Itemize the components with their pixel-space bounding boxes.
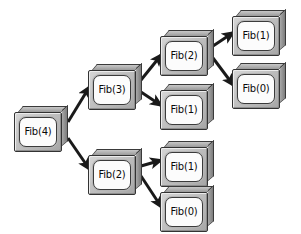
node-front-face: Fib(0) bbox=[160, 192, 208, 232]
node-plate: Fib(4) bbox=[19, 117, 57, 147]
node-right-face bbox=[280, 9, 286, 50]
tree-node-fib1a[interactable]: Fib(1) bbox=[160, 84, 214, 130]
node-right-face bbox=[208, 140, 214, 181]
tree-edge-fib2b-to-fib0b bbox=[141, 176, 162, 208]
tree-edge-fib4-to-fib2b bbox=[68, 138, 90, 170]
fibonacci-recursion-tree: Fib(4)Fib(3)Fib(2)Fib(1)Fib(1)Fib(0)Fib(… bbox=[0, 0, 301, 234]
tree-edge-fib3-to-fib1a bbox=[141, 92, 162, 106]
node-plate: Fib(1) bbox=[165, 95, 203, 125]
node-right-face bbox=[62, 105, 68, 146]
node-right-face bbox=[208, 29, 214, 70]
node-label: Fib(1) bbox=[170, 162, 197, 172]
tree-node-fib3[interactable]: Fib(3) bbox=[88, 64, 142, 110]
node-label: Fib(2) bbox=[98, 170, 125, 180]
node-right-face bbox=[208, 83, 214, 124]
tree-node-fib2a[interactable]: Fib(2) bbox=[160, 30, 214, 76]
tree-node-fib2b[interactable]: Fib(2) bbox=[88, 149, 142, 195]
node-plate: Fib(2) bbox=[93, 160, 131, 190]
node-right-face bbox=[280, 62, 286, 103]
node-plate: Fib(3) bbox=[93, 75, 131, 105]
node-front-face: Fib(3) bbox=[88, 70, 136, 110]
tree-edge-fib4-to-fib3 bbox=[68, 86, 90, 122]
tree-node-fib0b[interactable]: Fib(0) bbox=[160, 186, 214, 232]
tree-node-fib1c[interactable]: Fib(1) bbox=[160, 141, 214, 187]
node-right-face bbox=[208, 185, 214, 226]
node-plate: Fib(1) bbox=[237, 21, 275, 51]
node-plate: Fib(2) bbox=[165, 41, 203, 71]
node-right-face bbox=[136, 63, 142, 104]
node-label: Fib(1) bbox=[242, 31, 269, 41]
node-front-face: Fib(2) bbox=[88, 155, 136, 195]
tree-edge-fib3-to-fib2a bbox=[141, 54, 162, 80]
node-plate: Fib(0) bbox=[237, 74, 275, 104]
node-front-face: Fib(1) bbox=[232, 16, 280, 56]
node-label: Fib(0) bbox=[242, 84, 269, 94]
tree-node-fib1b[interactable]: Fib(1) bbox=[232, 10, 286, 56]
node-plate: Fib(1) bbox=[165, 152, 203, 182]
tree-edge-fib2a-to-fib0a bbox=[213, 58, 234, 86]
node-front-face: Fib(4) bbox=[14, 112, 62, 152]
node-label: Fib(2) bbox=[170, 51, 197, 61]
node-label: Fib(1) bbox=[170, 105, 197, 115]
node-front-face: Fib(2) bbox=[160, 36, 208, 76]
node-front-face: Fib(1) bbox=[160, 90, 208, 130]
tree-node-fib0a[interactable]: Fib(0) bbox=[232, 63, 286, 109]
node-front-face: Fib(0) bbox=[232, 69, 280, 109]
node-right-face bbox=[136, 148, 142, 189]
tree-edge-fib2a-to-fib1b bbox=[213, 32, 234, 46]
tree-node-fib4[interactable]: Fib(4) bbox=[14, 106, 68, 152]
node-plate: Fib(0) bbox=[165, 197, 203, 227]
node-front-face: Fib(1) bbox=[160, 147, 208, 187]
node-label: Fib(0) bbox=[170, 207, 197, 217]
node-label: Fib(4) bbox=[24, 127, 51, 137]
tree-edge-fib2b-to-fib1c bbox=[141, 160, 162, 166]
node-label: Fib(3) bbox=[98, 85, 125, 95]
